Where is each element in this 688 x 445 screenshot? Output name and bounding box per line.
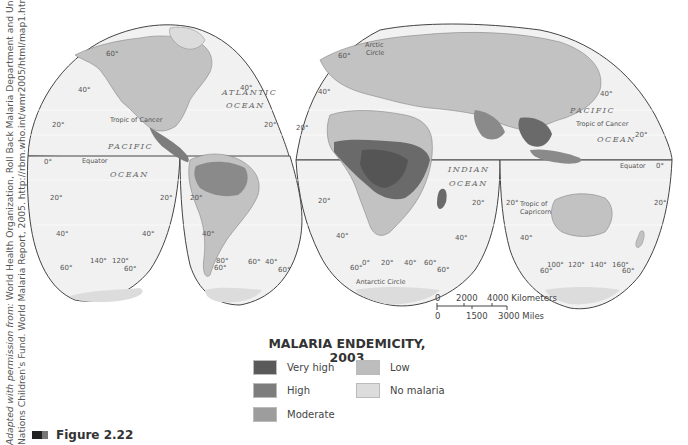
- legend-item-moderate: Moderate: [253, 407, 335, 422]
- figure-marker-icon: [32, 431, 48, 439]
- deg-20-africa: 20°: [381, 259, 393, 267]
- scale-mi-3000: 3000 Miles: [498, 311, 545, 321]
- scale-bar: 0 2000 4000 Kilometers 0 1500 3000 Miles: [430, 292, 650, 322]
- deg-20-sw2: 20°: [160, 194, 172, 202]
- legend-item-high: High: [253, 383, 310, 398]
- deg-20-n-africa: 20°: [296, 124, 308, 132]
- deg-40-sw: 40°: [56, 230, 68, 238]
- legend-label-low: Low: [390, 362, 410, 373]
- deg-20-sa: 20°: [190, 194, 202, 202]
- deg-20-nw: 20°: [52, 121, 64, 129]
- deg-40-s-africa: 40°: [336, 232, 348, 240]
- swatch-no-malaria: [356, 383, 380, 398]
- figure-caption: Figure 2.22: [32, 428, 133, 442]
- figure-label: Figure 2.22: [56, 428, 133, 442]
- tropic-cancer-east: Tropic of Cancer: [575, 120, 629, 128]
- antarctic-circle: Antarctic Circle: [356, 278, 405, 286]
- deg-20-ne: 20°: [264, 121, 276, 129]
- swatch-high: [253, 383, 277, 398]
- tropic-capricorn-1: Tropic of: [519, 200, 548, 208]
- pacific-east-label-1: PACIFIC: [569, 106, 615, 115]
- deg-40-sa2: 40°: [265, 258, 277, 266]
- deg-40-n-africa: 40°: [318, 88, 330, 96]
- scale-mi-1500: 1500: [466, 311, 488, 321]
- atlantic-label-2: OCEAN: [226, 101, 265, 110]
- equator-west: Equator: [82, 157, 108, 165]
- deg-20-pacific-e: 20°: [635, 131, 647, 139]
- legend-label-no-malaria: No malaria: [390, 385, 445, 396]
- swatch-low: [356, 360, 380, 375]
- legend-label-high: High: [287, 385, 310, 396]
- deg-60-sw: 60°: [60, 264, 72, 272]
- deg-40-sw2: 40°: [142, 230, 154, 238]
- deg-60-n-africa: 60°: [338, 52, 350, 60]
- deg-60-aus-e: 60°: [622, 267, 634, 275]
- pacific-west-label-2: OCEAN: [110, 170, 149, 179]
- deg-40-aus: 40°: [520, 234, 532, 242]
- deg-60-sa: 60°: [214, 264, 226, 272]
- deg-60-sw3: 60°: [124, 265, 136, 273]
- indian-label-1: INDIAN: [447, 165, 490, 174]
- deg-40-pacific-e: 40°: [600, 90, 612, 98]
- arctic-circle-1: Arctic: [365, 41, 384, 49]
- deg-40-indian: 40°: [455, 234, 467, 242]
- pacific-west-label-1: PACIFIC: [107, 142, 153, 151]
- deg-0-africa: 0°: [362, 259, 370, 267]
- world-map: ATLANTIC OCEAN PACIFIC OCEAN INDIAN OCEA…: [0, 0, 688, 445]
- deg-0-w: 0°: [44, 158, 52, 166]
- equator-east: Equator: [620, 162, 646, 170]
- deg-100: 100°: [547, 261, 564, 269]
- deg-20-sw: 20°: [50, 194, 62, 202]
- pacific-east-label-2: OCEAN: [597, 135, 636, 144]
- deg-60-nw: 60°: [106, 50, 118, 58]
- deg-20-aus-e: 20°: [654, 199, 666, 207]
- legend-label-moderate: Moderate: [287, 409, 335, 420]
- indian-label-2: OCEAN: [449, 179, 488, 188]
- scale-km-2000: 2000: [456, 293, 478, 303]
- scale-km-0: 0: [435, 293, 440, 303]
- deg-140-aus: 140°: [590, 261, 607, 269]
- deg-140: 140°: [90, 257, 107, 265]
- lobe-pacific-south: [27, 156, 180, 301]
- legend-title-line1: MALARIA ENDEMICITY,: [262, 337, 432, 351]
- deg-20-aus: 20°: [506, 199, 518, 207]
- legend-item-no-malaria: No malaria: [356, 383, 445, 398]
- deg-60-sa3: 60°: [278, 266, 290, 274]
- tropic-cancer-west: Tropic of Cancer: [109, 116, 163, 124]
- deg-60-indian: 60°: [437, 266, 449, 274]
- deg-40-ne: 40°: [240, 84, 252, 92]
- deg-60-africa: 60°: [424, 259, 436, 267]
- swatch-very-high: [253, 360, 277, 375]
- legend-item-low: Low: [356, 360, 410, 375]
- deg-20-indian: 20°: [472, 199, 484, 207]
- legend-label-very-high: Very high: [287, 362, 334, 373]
- deg-60-sa2: 60°: [248, 258, 260, 266]
- deg-40-sa: 40°: [202, 230, 214, 238]
- legend-item-very-high: Very high: [253, 360, 334, 375]
- swatch-moderate: [253, 407, 277, 422]
- tropic-capricorn-2: Capricorn: [520, 208, 551, 216]
- deg-0-e: 0°: [656, 162, 664, 170]
- deg-120-aus: 120°: [568, 261, 585, 269]
- australia: [551, 194, 612, 237]
- arctic-circle-2: Circle: [366, 49, 384, 57]
- scale-km-4000: 4000 Kilometers: [487, 293, 557, 303]
- deg-40-africa: 40°: [404, 259, 416, 267]
- deg-60-s-africa: 60°: [350, 264, 362, 272]
- deg-40-nw: 40°: [78, 86, 90, 94]
- deg-20-s-africa: 20°: [318, 197, 330, 205]
- scale-mi-0: 0: [435, 311, 440, 321]
- deg-120: 120°: [112, 257, 129, 265]
